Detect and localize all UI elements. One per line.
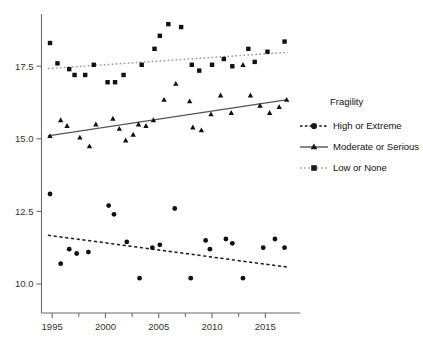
data-point [282, 39, 286, 43]
legend-item-high-or-extreme[interactable]: High or Extreme [300, 116, 422, 135]
data-point [48, 192, 53, 197]
data-point [173, 81, 178, 86]
legend-key-triangle-icon [300, 140, 328, 154]
data-point [172, 206, 177, 211]
data-point [273, 237, 278, 242]
data-point [58, 261, 63, 266]
data-point [261, 245, 266, 250]
y-axis-tick-label: 15.0 [15, 133, 34, 144]
data-point [246, 47, 250, 51]
x-axis-tick-label: 1995 [42, 321, 63, 332]
data-point [93, 122, 98, 127]
data-point [87, 143, 92, 148]
legend-label-high-or-extreme: High or Extreme [333, 120, 402, 131]
data-point [229, 110, 234, 115]
y-axis-tick-label: 10.0 [15, 278, 34, 289]
data-point [187, 98, 192, 103]
data-point [179, 25, 183, 29]
data-point [58, 117, 63, 122]
x-axis-tick-label: 2000 [95, 321, 116, 332]
data-point [277, 104, 282, 109]
data-point [130, 132, 135, 137]
data-point [222, 57, 226, 61]
series-low-or-none [48, 22, 288, 84]
data-point [248, 93, 253, 98]
data-point [240, 62, 245, 67]
data-point [74, 251, 79, 256]
legend-label-moderate-or-serious: Moderate or Serious [333, 141, 419, 152]
data-point [218, 93, 223, 98]
legend-title: Fragility [330, 96, 422, 107]
data-point [55, 61, 59, 65]
data-point [72, 73, 76, 77]
data-point [121, 73, 125, 77]
x-axis-tick-label: 2015 [255, 321, 276, 332]
data-point [123, 138, 128, 143]
legend-item-moderate-or-serious[interactable]: Moderate or Serious [300, 137, 422, 156]
data-point [284, 97, 289, 102]
series-high-or-extreme [48, 192, 288, 281]
data-point [282, 245, 287, 250]
data-point [230, 64, 234, 68]
data-point [106, 203, 111, 208]
data-point [190, 63, 194, 67]
data-point [64, 123, 69, 128]
data-point [208, 247, 213, 252]
data-point [143, 123, 148, 128]
data-point [110, 116, 115, 121]
data-point [197, 68, 201, 72]
x-axis-tick-label: 2005 [148, 321, 169, 332]
legend-item-low-or-none[interactable]: Low or None [300, 158, 422, 177]
data-point [241, 276, 246, 281]
data-point [83, 73, 87, 77]
data-point [140, 63, 144, 67]
trend-line [48, 100, 288, 136]
legend: Fragility High or Extreme Moderate or Se… [300, 96, 422, 179]
data-point [188, 276, 193, 281]
legend-key-circle-icon [300, 119, 328, 133]
trend-line [48, 52, 288, 68]
data-point [190, 125, 195, 130]
x-axis-tick-label: 2010 [201, 321, 222, 332]
data-series [47, 22, 289, 281]
data-point [92, 63, 96, 67]
data-point [77, 135, 82, 140]
scatter-plot-figure: 10.012.515.017.519952000200520102015 Fra… [0, 0, 423, 342]
data-point [105, 80, 109, 84]
legend-label-low-or-none: Low or None [333, 162, 387, 173]
data-point [67, 67, 71, 71]
data-point [166, 22, 170, 26]
y-axis-tick-label: 17.5 [15, 61, 34, 72]
data-point [199, 127, 204, 132]
data-point [48, 41, 52, 45]
data-point [137, 276, 142, 281]
trend-line [48, 235, 288, 267]
data-point [210, 63, 214, 67]
data-point [152, 47, 156, 51]
data-point [157, 242, 162, 247]
data-point [265, 50, 269, 54]
data-point [67, 247, 72, 252]
data-point [158, 34, 162, 38]
data-point [150, 245, 155, 250]
data-point [113, 80, 117, 84]
y-axis-tick-label: 12.5 [15, 206, 34, 217]
data-point [112, 212, 117, 217]
data-point [203, 238, 208, 243]
data-point [161, 97, 166, 102]
data-point [267, 110, 272, 115]
legend-key-square-icon [300, 161, 328, 175]
data-point [117, 126, 122, 131]
data-point [86, 250, 91, 255]
data-point [252, 60, 256, 64]
data-point [230, 241, 235, 246]
data-point [124, 239, 129, 244]
data-point [224, 237, 229, 242]
